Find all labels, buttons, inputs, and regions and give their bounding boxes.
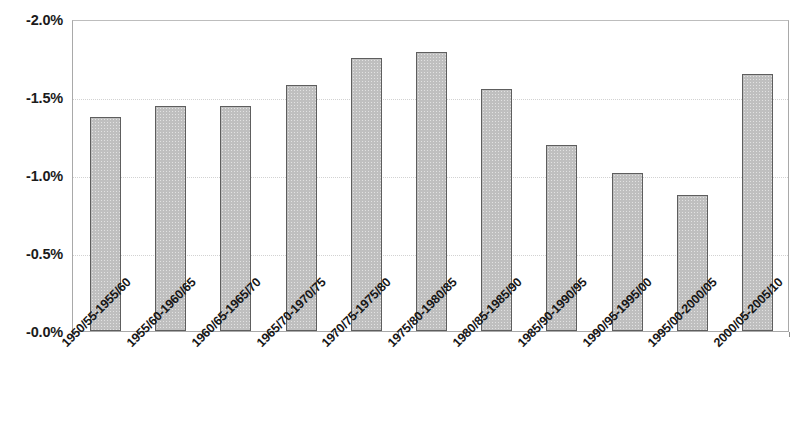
y-axis-tick-label: -0.0% — [26, 324, 63, 340]
bar-chart-figure: -2.0%-1.5%-1.0%-0.5%-0.0% 1950/55-1955/6… — [0, 0, 794, 445]
y-axis-tick-label: -1.5% — [26, 90, 63, 106]
y-axis-tick-label: -2.0% — [26, 12, 63, 28]
x-axis: 1950/55-1955/601955/60-1960/651960/65-19… — [72, 332, 789, 445]
y-axis: -2.0%-1.5%-1.0%-0.5%-0.0% — [0, 0, 72, 445]
y-axis-tick-label: -1.0% — [26, 168, 63, 184]
x-axis-tick — [789, 332, 790, 337]
y-axis-tick-label: -0.5% — [26, 246, 63, 262]
